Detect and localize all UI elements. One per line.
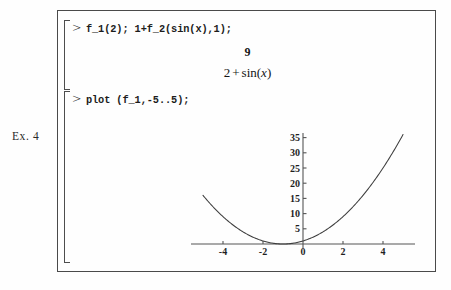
x-axis-tick-labels: -4-2024 — [219, 246, 386, 257]
x-tick-label: 0 — [301, 246, 306, 257]
plot-output[interactable]: 5101520253035 -4-2024 — [128, 121, 428, 261]
x-tick-label: -4 — [219, 246, 227, 257]
maple-input-text-1: f_1(2); 1+f_2(sin(x),1); — [86, 23, 232, 35]
expression-paren-close: ) — [267, 65, 271, 80]
y-tick-label: 20 — [290, 178, 300, 189]
y-tick-label: 15 — [290, 193, 300, 204]
maple-worksheet-frame: >f_1(2); 1+f_2(sin(x),1); 9 2+sin(x) >pl… — [57, 10, 436, 272]
maple-input-line-1[interactable]: >f_1(2); 1+f_2(sin(x),1); — [73, 21, 232, 36]
y-tick-label: 30 — [290, 147, 300, 158]
y-tick-label: 35 — [290, 132, 300, 143]
x-tick-label: 4 — [381, 246, 386, 257]
y-tick-label: 5 — [295, 223, 300, 234]
expression-operator-plus: + — [230, 65, 241, 80]
execution-group-bracket-2[interactable] — [64, 91, 70, 263]
y-tick-label: 25 — [290, 163, 300, 174]
prompt-caret-icon: > — [72, 21, 81, 36]
exercise-label: Ex. 4 — [12, 130, 39, 142]
plot-canvas: 5101520253035 -4-2024 — [128, 121, 428, 261]
y-axis-tick-labels: 5101520253035 — [290, 132, 300, 234]
prompt-caret-icon: > — [72, 92, 81, 107]
maple-output-expression: 2+sin(x) — [58, 65, 437, 81]
expression-function-sin: sin( — [242, 65, 262, 80]
maple-input-text-2: plot (f_1,-5..5); — [86, 94, 189, 106]
maple-output-scalar: 9 — [58, 45, 437, 60]
figure-page: Ex. 4 >f_1(2); 1+f_2(sin(x),1); 9 2+sin(… — [0, 0, 451, 290]
x-tick-label: -2 — [259, 246, 267, 257]
x-tick-label: 2 — [341, 246, 346, 257]
y-tick-label: 10 — [290, 208, 300, 219]
maple-input-line-2[interactable]: >plot (f_1,-5..5); — [73, 92, 189, 107]
